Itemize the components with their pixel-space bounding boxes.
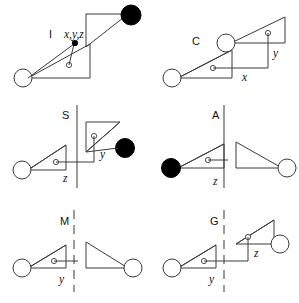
connector-line-lower <box>28 44 74 78</box>
operation-label-s: S <box>62 109 69 121</box>
symmetry-operation-figure: I x,y,z C x <box>0 0 299 303</box>
axis-label-z: z <box>62 172 68 184</box>
operation-label-i: I <box>49 28 52 40</box>
triangle-hypotenuse <box>28 245 66 268</box>
axis-label-y: y <box>58 273 65 286</box>
inversion-connector <box>28 40 78 78</box>
filled-circle-marker <box>121 5 141 25</box>
panel-g: G y z <box>150 200 299 303</box>
axis-label-x: x <box>241 71 248 83</box>
panel-c: C x y <box>150 0 299 100</box>
triangle-hypotenuse <box>178 144 224 168</box>
motif-image-g <box>236 220 289 253</box>
open-circle-marker <box>13 161 31 179</box>
triangle-hypotenuse <box>178 50 232 78</box>
open-circle-marker <box>278 159 296 177</box>
motif-image-a <box>236 142 296 177</box>
open-circle-marker <box>14 69 32 87</box>
triangle-outline <box>236 142 282 168</box>
triangle-outline <box>86 242 128 268</box>
filled-circle-marker <box>162 159 181 178</box>
triangle-outline <box>28 44 90 78</box>
filled-circle-marker <box>116 139 135 158</box>
motif-image-i <box>86 5 141 47</box>
operation-label-m: M <box>60 215 69 227</box>
axis-label-y: y <box>99 148 106 161</box>
motif-base-a <box>162 144 229 178</box>
open-circle-marker <box>163 69 181 87</box>
motif-image-m <box>86 242 142 277</box>
triangle-outline <box>231 17 285 43</box>
axis-label-y: y <box>208 273 215 286</box>
panel-s: S z y <box>0 100 150 200</box>
operation-label-c: C <box>192 35 200 47</box>
motif-base-i <box>14 44 90 87</box>
open-circle-marker <box>271 235 289 253</box>
axis-label-y: y <box>272 47 279 60</box>
triangle-hypotenuse <box>28 145 66 170</box>
motif-base-m <box>13 245 78 277</box>
axis-label-z: z <box>253 247 259 259</box>
open-circle-marker <box>163 259 181 277</box>
operation-label-g: G <box>210 215 219 227</box>
coord-label-xyz: x,y,z <box>63 28 84 41</box>
open-circle-marker <box>217 34 235 52</box>
axis-label-z: z <box>212 175 218 187</box>
triangle-hypotenuse <box>178 245 216 268</box>
panel-m: M y <box>0 200 150 303</box>
open-circle-marker <box>124 259 142 277</box>
triangle-hypotenuse <box>236 220 274 244</box>
operation-label-a: A <box>212 109 220 121</box>
panel-i: I x,y,z <box>0 0 150 100</box>
translation-connector-s <box>56 136 94 162</box>
panel-a: A z <box>150 100 299 200</box>
open-circle-marker <box>13 259 31 277</box>
motif-image-s <box>86 122 135 158</box>
inversion-center-dot <box>72 40 78 46</box>
